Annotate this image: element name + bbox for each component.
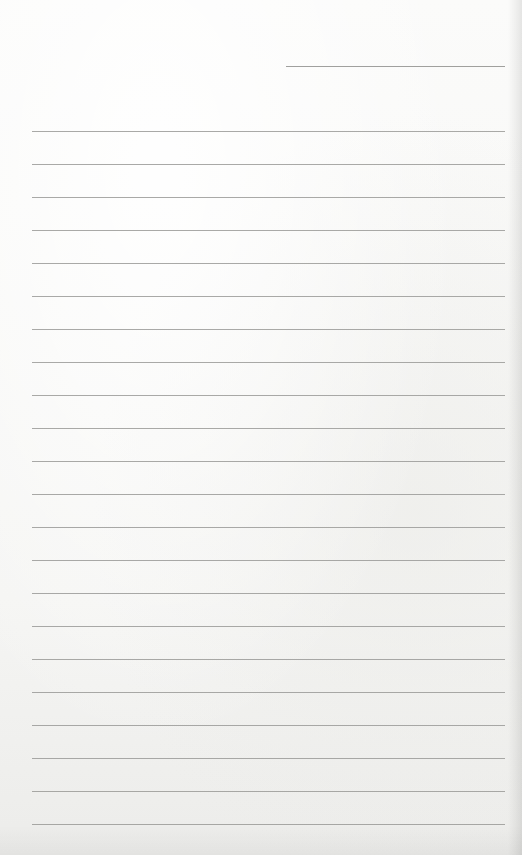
ruled-line xyxy=(32,428,505,429)
ruled-line xyxy=(32,263,505,264)
ruled-line xyxy=(32,692,505,693)
ruled-line xyxy=(32,527,505,528)
page-edge-shadow-right xyxy=(508,0,522,855)
ruled-line xyxy=(32,626,505,627)
ruled-line xyxy=(32,593,505,594)
ruled-line xyxy=(32,494,505,495)
header-date-line xyxy=(286,66,505,67)
ruled-line xyxy=(32,758,505,759)
ruled-line xyxy=(32,197,505,198)
ruled-line xyxy=(32,362,505,363)
ruled-line xyxy=(32,329,505,330)
ruled-line xyxy=(32,560,505,561)
page-edge-shadow-bottom xyxy=(0,825,522,855)
lined-paper-page xyxy=(0,0,522,855)
ruled-line xyxy=(32,296,505,297)
ruled-line xyxy=(32,791,505,792)
ruled-line xyxy=(32,230,505,231)
ruled-line xyxy=(32,659,505,660)
ruled-line xyxy=(32,395,505,396)
ruled-line xyxy=(32,131,505,132)
ruled-line xyxy=(32,164,505,165)
ruled-line xyxy=(32,461,505,462)
ruled-line xyxy=(32,725,505,726)
